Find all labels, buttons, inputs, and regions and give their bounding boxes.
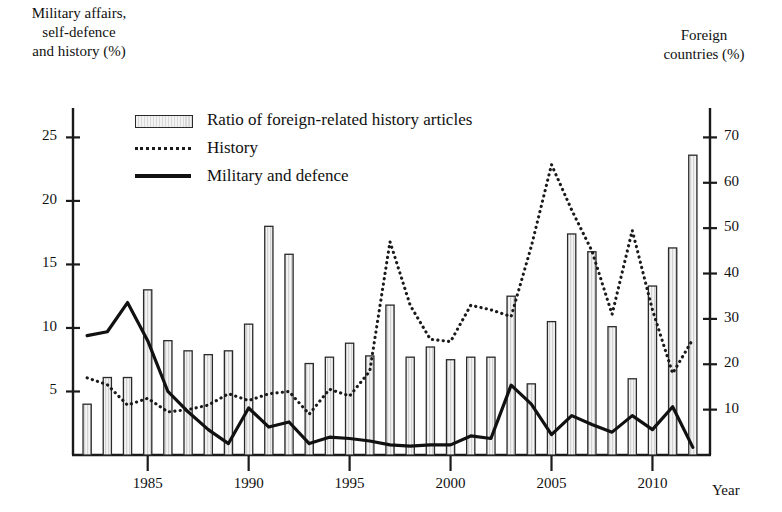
table-row-bar-2011 — [669, 248, 677, 455]
table-row-bar-1997 — [386, 305, 394, 455]
table-row-bar-1987 — [184, 351, 192, 455]
table-row-bar-1986 — [164, 341, 172, 455]
right-tick-label-10: 10 — [724, 400, 758, 417]
right-tick-label-20: 20 — [724, 354, 758, 371]
right-tick-label-30: 30 — [724, 309, 758, 326]
plot-area — [0, 0, 782, 512]
table-row-bar-2008 — [608, 327, 616, 455]
table-row-bar-2003 — [507, 296, 515, 455]
right-tick-label-40: 40 — [724, 264, 758, 281]
left-tick-label-25: 25 — [23, 127, 57, 144]
left-tick-label-20: 20 — [23, 191, 57, 208]
right-tick-label-50: 50 — [724, 218, 758, 235]
x-tick-label-1990: 1990 — [219, 475, 279, 492]
table-row-bar-1991 — [265, 226, 273, 455]
table-row-bar-2012 — [689, 155, 697, 455]
table-row-bar-2002 — [487, 357, 495, 455]
table-row-bar-1999 — [426, 347, 434, 455]
left-tick-label-15: 15 — [23, 254, 57, 271]
left-tick-label-10: 10 — [23, 318, 57, 335]
table-row-bar-1990 — [245, 324, 253, 455]
table-row-bar-2004 — [527, 384, 535, 455]
table-row-bar-1994 — [325, 357, 333, 455]
right-tick-label-70: 70 — [724, 127, 758, 144]
x-tick-label-1995: 1995 — [320, 475, 380, 492]
table-row-bar-2001 — [467, 357, 475, 455]
table-row-bar-1985 — [144, 290, 152, 455]
x-tick-label-1985: 1985 — [118, 475, 178, 492]
x-tick-label-2000: 2000 — [421, 475, 481, 492]
table-row-bar-2006 — [568, 234, 576, 455]
x-tick-label-2005: 2005 — [522, 475, 582, 492]
table-row-bar-1998 — [406, 357, 414, 455]
left-tick-label-5: 5 — [23, 381, 57, 398]
table-row-bar-1982 — [83, 404, 91, 455]
x-tick-label-2010: 2010 — [622, 475, 682, 492]
chart-container: Military affairs, self-defence and histo… — [0, 0, 782, 512]
right-tick-label-60: 60 — [724, 173, 758, 190]
table-row-bar-2000 — [446, 360, 454, 455]
table-row-bar-1984 — [123, 378, 131, 455]
